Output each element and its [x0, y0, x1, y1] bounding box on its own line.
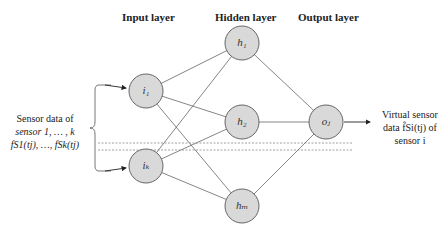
node-label-hm: hₘ	[224, 199, 260, 212]
input-desc-line3: fS1(tj), …, fSk(tj)	[2, 138, 88, 151]
left-brace	[90, 85, 111, 171]
node-label-h2: h₂	[224, 115, 260, 127]
output-layer-title: Output layer	[298, 11, 359, 23]
separator-dashes	[98, 143, 352, 150]
node-label-ik: iₖ	[128, 159, 164, 172]
node-label-oj: oⱼ	[308, 115, 344, 128]
input-description: Sensor data of sensor 1, … , k fS1(tj), …	[2, 112, 88, 151]
output-description: Virtual sensor data f̂Si(tj) of sensor i	[372, 108, 448, 147]
node-label-i1: i₁	[128, 84, 164, 96]
output-desc-line3: sensor i	[372, 134, 448, 147]
input-layer-title: Input layer	[122, 11, 175, 23]
output-desc-line1: Virtual sensor	[372, 108, 448, 121]
input-desc-line1: Sensor data of	[2, 112, 88, 125]
node-label-h1: h₁	[224, 36, 260, 48]
hidden-layer-title: Hidden layer	[215, 11, 276, 23]
output-desc-line2: data f̂Si(tj) of	[372, 121, 448, 134]
input-desc-line2: sensor 1, … , k	[2, 125, 88, 138]
